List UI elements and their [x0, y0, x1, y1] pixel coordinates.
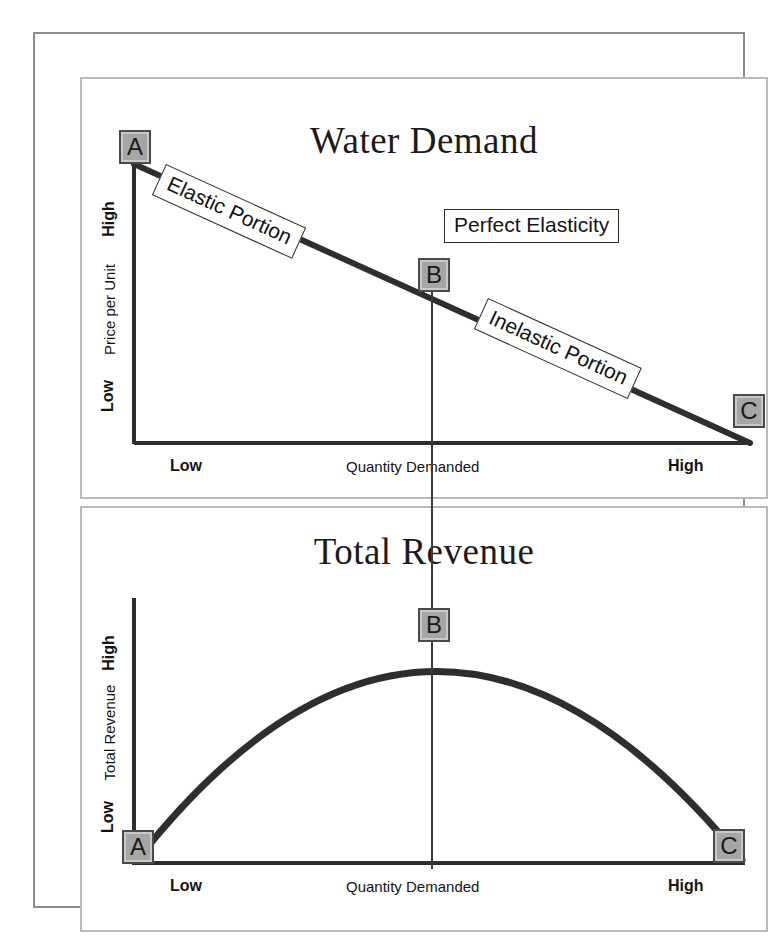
demand-marker-a[interactable]: A [119, 130, 151, 164]
demand-marker-c[interactable]: C [733, 394, 765, 428]
economics-figure: Water Demand High Price per Unit Low Low… [0, 0, 776, 936]
unit-elasticity-connector-line [431, 277, 433, 869]
demand-y-axis-title: Price per Unit [101, 245, 118, 375]
revenue-x-axis-title: Quantity Demanded [346, 878, 479, 895]
revenue-x-high-label: High [668, 877, 704, 895]
revenue-y-axis-title: Total Revenue [101, 673, 118, 793]
demand-marker-b[interactable]: B [418, 258, 450, 292]
demand-y-high-label: High [100, 189, 118, 249]
figure-outer-frame: Water Demand High Price per Unit Low Low… [33, 32, 745, 908]
revenue-x-low-label: Low [170, 877, 202, 895]
revenue-marker-a[interactable]: A [122, 830, 154, 864]
revenue-marker-b[interactable]: B [418, 608, 450, 642]
revenue-marker-c[interactable]: C [713, 829, 745, 863]
demand-x-low-label: Low [170, 457, 202, 475]
total-revenue-panel: Total Revenue High Total Revenue Low Low… [80, 506, 768, 932]
perfect-elasticity-callout: Perfect Elasticity [444, 209, 619, 243]
water-demand-panel: Water Demand High Price per Unit Low Low… [80, 77, 768, 499]
demand-x-high-label: High [668, 457, 704, 475]
revenue-curve [137, 672, 742, 861]
demand-x-axis-title: Quantity Demanded [346, 458, 479, 475]
demand-y-low-label: Low [99, 366, 117, 426]
revenue-y-low-label: Low [99, 787, 117, 847]
total-revenue-plot [82, 508, 770, 934]
